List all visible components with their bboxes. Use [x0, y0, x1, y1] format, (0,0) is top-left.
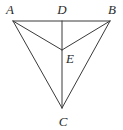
vertex-label-D: D	[57, 3, 66, 16]
vertex-label-E: E	[66, 52, 74, 65]
segment-AE	[13, 21, 62, 50]
vertex-label-B: B	[108, 3, 116, 16]
geometry-canvas	[0, 0, 123, 130]
segment-BE	[62, 21, 110, 50]
segment-AC	[13, 21, 62, 108]
geometry-figure: A D B E C	[0, 0, 123, 130]
vertex-label-A: A	[6, 3, 14, 16]
vertex-label-C: C	[59, 115, 68, 128]
